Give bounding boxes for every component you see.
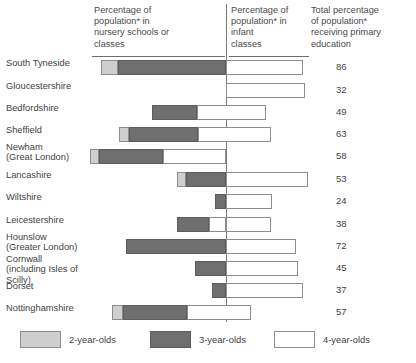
legend-item-four: 4-year-olds	[274, 330, 404, 350]
column-header-nursery: Percentage of population* in nursery sch…	[94, 5, 204, 50]
column-header-total: Total percentage of population* receivin…	[311, 5, 411, 50]
bar-group	[0, 149, 330, 164]
header-rule-left	[92, 56, 225, 57]
row-total-value: 37	[336, 283, 347, 296]
bar-segment-s4	[226, 194, 272, 209]
bar-segment-s3	[123, 305, 187, 320]
bar-segment-s4	[226, 217, 271, 232]
table-row: Nottinghamshire57	[0, 303, 416, 322]
row-total-value: 24	[336, 194, 347, 207]
bar-segment-s4	[197, 105, 266, 120]
bar-segment-s2	[119, 127, 129, 142]
bar-segment-s2	[90, 149, 99, 164]
row-total-value: 57	[336, 305, 347, 318]
bar-group	[0, 127, 330, 142]
bar-segment-s3	[118, 60, 226, 75]
chart-container: Percentage of population* in nursery sch…	[0, 0, 416, 363]
legend-label: 4-year-olds	[323, 333, 370, 346]
legend-swatch-four	[274, 331, 315, 348]
legend-swatch-two	[20, 331, 61, 348]
bar-group	[0, 105, 330, 120]
bar-group	[0, 239, 330, 254]
bar-group	[0, 305, 330, 320]
bar-segment-s3	[215, 194, 226, 209]
legend-item-two: 2-year-olds	[20, 330, 150, 350]
bar-segment-s3	[177, 217, 209, 232]
bar-segment-s4	[226, 283, 303, 298]
bar-group	[0, 83, 330, 98]
bar-segment-s3	[126, 239, 226, 254]
table-row: Bedfordshire49	[0, 103, 416, 122]
bar-segment-s4	[226, 172, 308, 187]
bar-segment-s3	[152, 105, 197, 120]
bar-segment-s2	[177, 172, 186, 187]
bar-segment-s4	[163, 149, 226, 164]
bar-segment-s4	[226, 83, 305, 98]
bar-segment-s4	[226, 261, 298, 276]
column-header-infant: Percentage of population* in infant clas…	[231, 5, 299, 50]
bar-segment-s2	[112, 305, 123, 320]
row-total-value: 38	[336, 217, 347, 230]
bar-segment-s3	[129, 127, 198, 142]
bar-segment-s3	[99, 149, 163, 164]
table-row: Gloucestershire32	[0, 81, 416, 100]
table-row: Dorset37	[0, 281, 416, 300]
row-total-value: 86	[336, 60, 347, 73]
bar-segment-s2	[101, 60, 118, 75]
row-total-value: 72	[336, 239, 347, 252]
legend-label: 2-year-olds	[69, 333, 116, 346]
row-total-value: 53	[336, 172, 347, 185]
table-row: Lancashire53	[0, 170, 416, 189]
bar-group	[0, 194, 330, 209]
legend: 2-year-olds3-year-olds4-year-olds	[20, 330, 400, 352]
row-total-value: 49	[336, 105, 347, 118]
row-total-value: 45	[336, 261, 347, 274]
bar-segment-s4	[187, 305, 251, 320]
row-total-value: 63	[336, 127, 347, 140]
bar-segment-s4	[198, 127, 271, 142]
table-row: South Tyneside86	[0, 58, 416, 77]
bar-segment-s3	[212, 283, 226, 298]
table-row: Newham (Great London)58	[0, 147, 416, 166]
legend-swatch-three	[150, 331, 191, 348]
bar-group	[0, 261, 330, 276]
bar-group	[0, 60, 330, 75]
row-total-value: 32	[336, 83, 347, 96]
bar-segment-s3	[186, 172, 226, 187]
bar-group	[0, 217, 330, 232]
row-total-value: 58	[336, 149, 347, 162]
legend-label: 3-year-olds	[199, 333, 246, 346]
bar-group	[0, 283, 330, 298]
bar-segment-s3	[195, 261, 226, 276]
table-row: Cornwall (including Isles of Scilly)45	[0, 259, 416, 278]
bar-segment-s4	[226, 60, 303, 75]
header-rule-middle	[229, 56, 309, 57]
bar-segment-s4	[209, 217, 226, 232]
legend-item-three: 3-year-olds	[150, 330, 280, 350]
bar-segment-s4	[226, 239, 296, 254]
bar-group	[0, 172, 330, 187]
table-row: Wiltshire24	[0, 192, 416, 211]
